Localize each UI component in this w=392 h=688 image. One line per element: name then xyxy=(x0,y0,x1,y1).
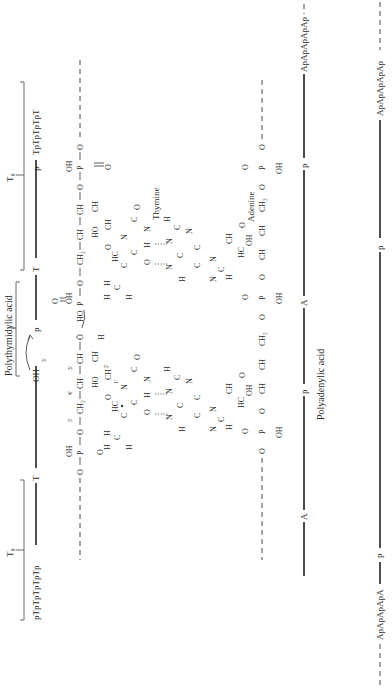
svg-text:N: N xyxy=(120,234,129,240)
svg-text:N: N xyxy=(165,388,174,394)
adenine-right: N C H N C C C N H N N C H xyxy=(163,216,234,282)
svg-text:CH₂: CH₂ xyxy=(258,198,267,212)
svg-text:O: O xyxy=(238,372,247,378)
svg-text:C: C xyxy=(176,403,185,408)
svg-text:HO: HO xyxy=(91,376,100,388)
thymine-left: N C O N H C O C HC C H H H xyxy=(103,354,168,450)
polythymidylic-acid-label: Polythymidylic acid xyxy=(3,295,14,376)
top-node-p-mid: p xyxy=(31,327,41,332)
svg-text:O: O xyxy=(258,184,267,190)
svg-text:OH: OH xyxy=(275,162,284,174)
svg-text:O: O xyxy=(76,280,85,286)
curved-arrow xyxy=(26,336,30,370)
svg-text:H: H xyxy=(178,276,187,282)
svg-text:HC: HC xyxy=(111,401,120,412)
svg-text:N: N xyxy=(165,264,174,270)
svg-text:CH: CH xyxy=(91,201,100,212)
svg-text:O: O xyxy=(104,244,113,250)
bottom-node-p-left: p xyxy=(374,553,384,558)
top-node-OH: OH xyxy=(31,369,41,382)
svg-text:C: C xyxy=(120,413,129,418)
svg-text:P: P xyxy=(258,429,267,434)
adenine-label: Adenine xyxy=(246,192,256,223)
bottom-node-A-right: A xyxy=(299,299,309,306)
svg-text:N: N xyxy=(185,378,194,384)
svg-text:P: P xyxy=(76,301,85,306)
svg-text:N: N xyxy=(165,238,174,244)
svg-text:OH: OH xyxy=(245,384,254,396)
top-node-p-right: p xyxy=(31,166,41,171)
svg-text:CH: CH xyxy=(76,353,85,364)
svg-text:C: C xyxy=(130,400,139,405)
far-right-sequence: ApApApApAp xyxy=(375,61,385,116)
bracket-label-t0-right: T₀ xyxy=(5,173,15,182)
svg-text:O: O xyxy=(143,259,152,265)
bottom-right-sequence: ApApApApAp xyxy=(299,17,309,72)
dot-marker xyxy=(121,405,123,407)
svg-text:HO: HO xyxy=(91,226,100,238)
svg-text:O: O xyxy=(258,408,267,414)
svg-text:Ö: Ö xyxy=(76,334,85,340)
svg-text:O: O xyxy=(104,394,113,400)
svg-text:CH: CH xyxy=(76,378,85,389)
svg-text:H: H xyxy=(225,274,234,280)
svg-text:CH₂: CH₂ xyxy=(76,400,85,414)
svg-text:H: H xyxy=(125,444,134,450)
svg-text:CH: CH xyxy=(258,359,267,370)
svg-text:C: C xyxy=(193,395,202,400)
svg-text:5': 5' xyxy=(67,418,73,422)
svg-text:C: C xyxy=(130,217,139,222)
svg-text:O: O xyxy=(143,409,152,415)
bracket-label-t0-left: T₀ xyxy=(5,548,15,557)
svg-text:2': 2' xyxy=(103,364,109,368)
svg-text:C: C xyxy=(193,263,202,268)
svg-text:O: O xyxy=(104,164,113,170)
top-left-sequence: pTpTpTpTpTp xyxy=(31,565,41,620)
svg-text:OH: OH xyxy=(275,292,284,304)
svg-text:O: O xyxy=(258,448,267,454)
svg-text:O: O xyxy=(241,294,250,300)
bottom-node-p-mid: p xyxy=(299,389,309,394)
svg-text:C: C xyxy=(130,250,139,255)
svg-text:CH: CH xyxy=(225,233,234,244)
svg-text:N: N xyxy=(185,228,194,234)
svg-text:C: C xyxy=(193,413,202,418)
svg-text:C: C xyxy=(113,285,122,290)
svg-text:C: C xyxy=(173,375,182,380)
svg-text:N: N xyxy=(143,376,152,382)
svg-text:H: H xyxy=(125,294,134,300)
svg-text:OH: OH xyxy=(65,292,74,304)
svg-text:H: H xyxy=(103,430,112,436)
svg-text:O: O xyxy=(258,314,267,320)
svg-text:H: H xyxy=(225,424,234,430)
svg-text:OH: OH xyxy=(65,160,74,172)
svg-text:CH: CH xyxy=(258,225,267,236)
svg-text:O: O xyxy=(258,274,267,280)
svg-text:4': 4' xyxy=(67,391,73,395)
svg-text:O: O xyxy=(51,298,60,304)
svg-text:CH: CH xyxy=(104,219,113,230)
bottom-node-p-right: p xyxy=(299,163,309,168)
svg-text:C: C xyxy=(120,263,129,268)
svg-text:H: H xyxy=(178,426,187,432)
bracket-polyT-name: Polythymidylic acid xyxy=(3,282,20,376)
svg-text:CH: CH xyxy=(258,383,267,394)
svg-text:CH: CH xyxy=(76,204,85,215)
svg-text:CH₂: CH₂ xyxy=(258,332,267,346)
svg-text:CH: CH xyxy=(76,229,85,240)
polyadenylic-acid-label: Polyadenylic acid xyxy=(315,349,326,420)
svg-text:O: O xyxy=(241,164,250,170)
svg-text:O: O xyxy=(241,428,250,434)
top-node-T-left: T xyxy=(31,475,41,481)
svg-text:H: H xyxy=(163,216,172,222)
svg-text:HC: HC xyxy=(111,251,120,262)
poly-t-poly-a-diagram: T₀ T₀ Polythymidylic acid TpTpTpTpT p T … xyxy=(0,0,392,688)
svg-text:C: C xyxy=(193,245,202,250)
svg-text:3': 3' xyxy=(67,366,73,370)
svg-text:O: O xyxy=(76,144,85,150)
svg-text:N: N xyxy=(209,256,218,262)
svg-text:1': 1' xyxy=(113,380,119,384)
svg-text:CH: CH xyxy=(91,351,100,362)
svg-text:HC: HC xyxy=(237,397,246,408)
svg-text:O: O xyxy=(258,144,267,150)
